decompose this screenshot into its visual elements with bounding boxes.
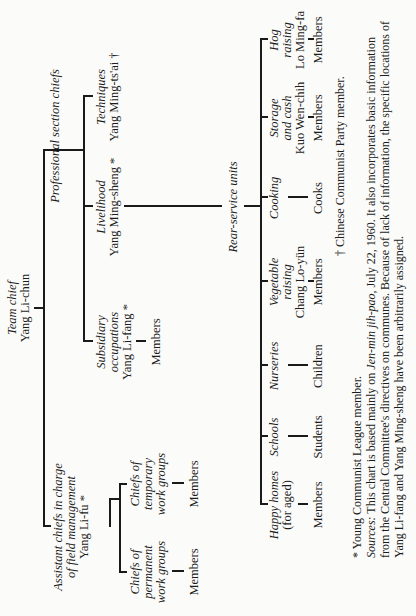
connector <box>83 205 93 207</box>
temporary-line3: work groups <box>155 453 168 515</box>
unit-label: Schools <box>268 418 281 457</box>
unit-sub: Members <box>312 481 325 528</box>
connector <box>288 364 308 366</box>
connector <box>288 196 308 198</box>
unit-sub: Members <box>312 94 325 141</box>
connector <box>109 499 111 527</box>
connector <box>244 205 260 207</box>
livelihood-name: Yang Ming-sheng * <box>108 158 121 257</box>
subsidiary-members: Members <box>150 318 163 365</box>
unit-happy-homes: Happy homes (for aged) <box>268 471 294 539</box>
unit-sub: Students <box>312 415 325 458</box>
connector <box>172 482 184 484</box>
connector <box>288 435 308 437</box>
unit-sub: Members <box>312 16 325 63</box>
connector <box>298 503 308 505</box>
connector <box>109 498 119 500</box>
unit-cooking: Cooking <box>268 177 281 219</box>
connector <box>119 483 121 573</box>
connector <box>172 570 184 572</box>
connector <box>43 525 51 527</box>
connector <box>124 205 222 207</box>
subsidiary-node: Subsidiary occupations Yang Li-fang * <box>95 304 134 380</box>
unit-label-2: (for aged) <box>281 471 294 539</box>
team-chief-node: Team chief Yang Li-chun <box>6 274 32 343</box>
assistant-name: Yang Li-fu * <box>78 463 91 591</box>
connector <box>83 95 93 97</box>
temporary-groups-node: Chiefs of temporary work groups <box>129 453 168 515</box>
unit-nurseries: Nurseries <box>268 342 281 391</box>
unit-label: Cooking <box>268 177 281 219</box>
unit-storage: Storage and cash Kuo Wen-chih <box>268 82 307 155</box>
unit-label: Nurseries <box>268 342 281 391</box>
star-footnote: * Young Communist League member. <box>350 18 364 558</box>
unit-sub: Cooks <box>312 182 325 214</box>
assistant-chief-node: Assistant chiefs in charge of field mana… <box>52 463 91 591</box>
permanent-line3: work groups <box>155 541 168 603</box>
rotated-page: Team chief Yang Li-chun Assistant chiefs… <box>0 0 416 616</box>
unit-head: Kuo Wen-chih <box>294 82 307 155</box>
techniques-name: Yang Ming-ts'ai † <box>108 52 121 141</box>
unit-sub: Members <box>312 258 325 305</box>
sources-label: Sources: <box>364 516 378 558</box>
unit-head: Lo Ming-fa <box>294 11 307 69</box>
permanent-groups-node: Chiefs of permanent work groups <box>129 541 168 603</box>
unit-sub: Children <box>312 344 325 388</box>
unit-schools: Schools <box>268 418 281 457</box>
unit-hog: Hog raising Lo Ming-fa <box>268 11 307 69</box>
connector <box>136 340 146 342</box>
techniques-node: Techniques Yang Ming-ts'ai † <box>95 52 121 141</box>
sources-text: This chart is based mainly on <box>364 370 378 517</box>
connector <box>55 149 84 151</box>
professional-label: Professional section chiefs <box>48 69 63 203</box>
connector <box>83 95 85 342</box>
connector <box>43 150 45 527</box>
permanent-members: Members <box>188 548 201 595</box>
rear-service-label: Rear-service units <box>226 161 241 252</box>
temporary-members: Members <box>188 460 201 507</box>
team-chief-name: Yang Li-chun <box>19 274 32 343</box>
dagger-footnote: † Chinese Communist Party member. <box>333 76 348 256</box>
connector <box>83 340 93 342</box>
livelihood-node: Livelihood Yang Ming-sheng * <box>95 158 121 257</box>
connector <box>119 483 127 485</box>
connector <box>119 571 127 573</box>
unit-head: Chang Lo-yün <box>294 246 307 319</box>
sources-note: Sources: This chart is based mainly on J… <box>364 18 406 558</box>
footnotes: * Young Communist League member. Sources… <box>350 18 406 558</box>
sources-publication: Jen-min jih-pao, <box>364 290 378 369</box>
subsidiary-name: Yang Li-fang * <box>121 304 134 380</box>
unit-vegetable: Vegetable raising Chang Lo-yün <box>268 246 307 319</box>
